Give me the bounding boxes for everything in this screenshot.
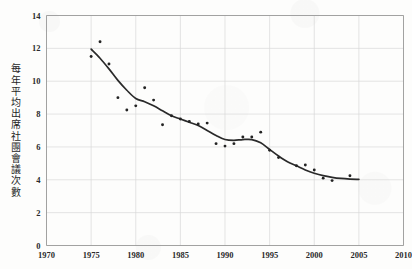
y-axis-label-char: 出	[11, 107, 21, 119]
y-axis-label-char: 社	[11, 130, 21, 142]
data-point	[241, 136, 244, 139]
data-point	[295, 164, 298, 167]
x-tick-label: 2010	[395, 250, 412, 260]
y-tick-label: 6	[36, 142, 40, 152]
x-tick-label: 1990	[217, 250, 234, 260]
data-point	[99, 40, 102, 43]
data-point	[277, 156, 280, 159]
x-tick-label: 1970	[38, 250, 55, 260]
x-tick-label: 1995	[261, 250, 278, 260]
y-tick-label: 4	[36, 175, 41, 185]
y-axis-label-char: 年	[11, 74, 21, 86]
data-point	[331, 179, 334, 182]
data-point	[134, 104, 137, 107]
data-point	[232, 142, 235, 145]
data-point	[206, 122, 209, 125]
x-axis-tick-labels: 197019751980198519901995200020052010	[38, 250, 412, 260]
y-axis-label-char: 議	[11, 163, 21, 175]
data-point	[90, 55, 93, 58]
y-axis-label-char: 團	[11, 142, 21, 153]
data-point	[322, 177, 325, 180]
y-tick-label: 10	[32, 76, 41, 86]
y-axis-label-char: 會	[11, 152, 21, 164]
y-axis-label-char: 每	[11, 62, 21, 74]
x-tick-label: 1980	[127, 250, 144, 260]
x-tick-label: 2005	[350, 250, 367, 260]
data-point	[215, 142, 218, 145]
y-tick-label: 14	[32, 11, 41, 21]
y-axis-label-char: 次	[11, 174, 21, 186]
data-point	[170, 114, 173, 117]
data-point	[125, 109, 128, 112]
y-tick-label: 8	[36, 109, 40, 119]
data-point	[188, 120, 191, 123]
x-tick-label: 1985	[172, 250, 189, 260]
chart-figure: 02468101214 1970197519801985199019952000…	[0, 0, 412, 269]
data-point	[349, 174, 352, 177]
data-point	[313, 168, 316, 171]
data-point	[268, 149, 271, 152]
data-point	[116, 96, 119, 99]
y-axis-label-char: 均	[11, 97, 21, 108]
y-axis-tick-labels: 02468101214	[32, 11, 41, 251]
scatter-plot-with-trendline: 02468101214 1970197519801985199019952000…	[0, 0, 412, 269]
data-point	[143, 86, 146, 89]
x-tick-label: 1975	[83, 250, 100, 260]
data-point	[108, 63, 111, 66]
y-axis-label: 每年平均出席社團會議次數	[11, 62, 21, 197]
y-axis-label-char: 平	[11, 86, 21, 97]
y-tick-label: 12	[32, 43, 41, 53]
data-point	[161, 123, 164, 126]
data-point	[197, 122, 200, 125]
data-point	[250, 136, 253, 139]
y-tick-label: 2	[36, 208, 40, 218]
data-point	[259, 131, 262, 134]
gridlines	[47, 16, 404, 246]
x-tick-label: 2000	[306, 250, 323, 260]
data-point	[152, 99, 155, 102]
y-axis-label-char: 席	[11, 118, 21, 130]
data-point	[179, 118, 182, 121]
data-point	[304, 164, 307, 167]
data-points	[90, 40, 352, 182]
data-point	[224, 145, 227, 148]
y-axis-label-char: 數	[11, 186, 21, 198]
